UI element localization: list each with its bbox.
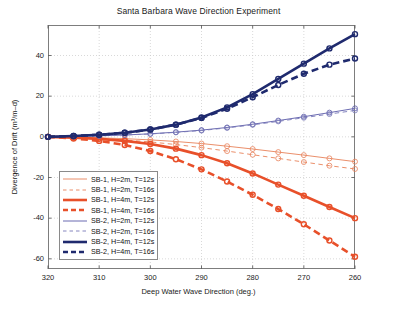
y-tick-label: 20 [20,91,44,100]
x-tick-label: 320 [33,273,63,282]
legend-line-sample [62,174,88,184]
legend-label: SB-1, H=4m, T=16s [88,206,154,215]
legend-line-sample [62,216,88,226]
x-tick-label: 270 [289,273,319,282]
legend-label: SB-2, H=4m, T=12s [88,237,154,246]
y-tick-label: 0 [20,132,44,141]
legend-label: SB-1, H=2m, T=12s [88,175,154,184]
legend-label: SB-2, H=4m, T=16s [88,247,154,256]
legend-label: SB-1, H=4m, T=12s [88,195,154,204]
legend-label: SB-2, H=2m, T=16s [88,227,154,236]
chart-title: Santa Barbara Wave Direction Experiment [0,6,397,16]
y-tick-label: -20 [20,173,44,182]
y-tick-label: 40 [20,51,44,60]
chart-figure: Santa Barbara Wave Direction Experiment … [0,0,397,309]
legend-label: SB-1, H=2m, T=16s [88,185,154,194]
legend-label: SB-2, H=2m, T=12s [88,216,154,225]
legend-item-1: SB-1, H=2m, T=16s [62,184,154,194]
x-tick-label: 290 [187,273,217,282]
y-tick-label: -60 [20,254,44,263]
legend-item-5: SB-2, H=2m, T=16s [62,226,154,236]
legend-item-2: SB-1, H=4m, T=12s [62,195,154,205]
legend-line-sample [62,237,88,247]
legend-item-0: SB-1, H=2m, T=12s [62,174,154,184]
legend-item-6: SB-2, H=4m, T=12s [62,236,154,246]
legend-item-3: SB-1, H=4m, T=16s [62,205,154,215]
legend-item-7: SB-2, H=4m, T=16s [62,247,154,257]
y-axis-label: Divergence of Drift (m³/m–d) [10,100,19,195]
x-axis-label: Deep Water Wave Direction (deg.) [0,287,397,296]
legend-line-sample [62,205,88,215]
x-tick-label: 300 [135,273,165,282]
legend-item-4: SB-2, H=2m, T=12s [62,216,154,226]
legend-line-sample [62,247,88,257]
y-tick-label: -40 [20,213,44,222]
x-tick-label: 310 [84,273,114,282]
legend-line-sample [62,226,88,236]
legend-line-sample [62,185,88,195]
x-tick-label: 260 [340,273,370,282]
legend-line-sample [62,195,88,205]
x-tick-label: 280 [238,273,268,282]
legend: SB-1, H=2m, T=12sSB-1, H=2m, T=16sSB-1, … [59,171,158,260]
